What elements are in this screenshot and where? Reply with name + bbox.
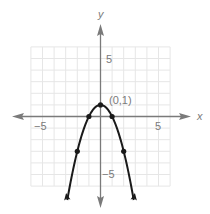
x-tick-label-pos5: 5	[155, 120, 161, 132]
data-point	[110, 114, 115, 119]
y-tick-label-neg5: −5	[102, 168, 115, 180]
vertex-label: (0,1)	[109, 94, 132, 106]
data-point	[86, 114, 91, 119]
x-axis-label: x	[196, 110, 203, 122]
x-tick-label-neg5: −5	[34, 120, 47, 132]
y-tick-label-pos5: 5	[106, 53, 112, 65]
data-point	[98, 102, 103, 107]
chart-canvas: x y −5 5 5 −5 (0,1)	[0, 0, 210, 214]
data-point	[75, 149, 80, 154]
data-point	[121, 149, 126, 154]
x-axis	[12, 113, 191, 120]
y-axis-label: y	[97, 8, 105, 20]
parabola-graph: x y −5 5 5 −5 (0,1)	[0, 0, 210, 214]
